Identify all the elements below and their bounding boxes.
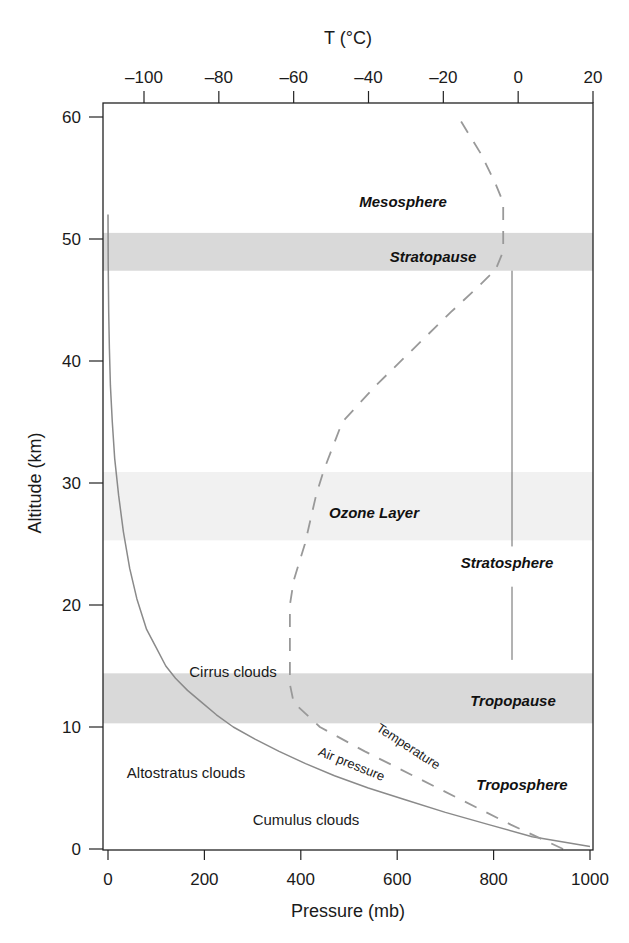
y-tick-label: 20 [62,596,81,615]
label-cumulus-clouds: Cumulus clouds [253,811,360,828]
y-tick-label: 60 [62,108,81,127]
y-axis-title: Altitude (km) [25,432,45,533]
x-tick-label: 400 [287,870,315,889]
y-tick-label: 10 [62,718,81,737]
label-troposphere: Troposphere [476,776,567,793]
label-stratopause: Stratopause [390,248,477,265]
x2-tick-label: 0 [513,68,522,87]
x2-tick-label: –100 [125,68,163,87]
x2-tick-label: 20 [584,68,603,87]
bottom-axis-title: Pressure (mb) [291,901,405,921]
y-tick-label: 40 [62,352,81,371]
x2-tick-label: –20 [429,68,457,87]
band-stratopause [103,233,593,271]
label-temperature-curve: Temperature [374,720,443,772]
x-tick-label: 200 [190,870,218,889]
x-tick-label: 600 [383,870,411,889]
x-tick-label: 0 [103,870,112,889]
label-cirrus-clouds: Cirrus clouds [189,663,277,680]
x2-tick-label: –40 [354,68,382,87]
label-ozone-layer: Ozone Layer [329,504,420,521]
label-mesosphere: Mesosphere [359,193,447,210]
x2-tick-label: –80 [205,68,233,87]
label-stratosphere: Stratosphere [461,554,554,571]
label-air-pressure-curve: Air pressure [316,744,387,784]
top-axis-title: T (°C) [324,28,372,48]
atmosphere-chart: 02004006008001000–100–80–60–40–200200102… [0,0,629,943]
x-tick-label: 800 [479,870,507,889]
y-tick-label: 0 [72,840,81,859]
label-tropopause: Tropopause [470,692,556,709]
x2-tick-label: –60 [279,68,307,87]
x-tick-label: 1000 [571,870,609,889]
y-tick-label: 30 [62,474,81,493]
label-altostratus-clouds: Altostratus clouds [127,764,245,781]
bands-layer [103,233,593,723]
y-tick-label: 50 [62,230,81,249]
